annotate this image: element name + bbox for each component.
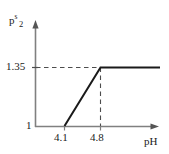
x-axis-label: pH	[144, 136, 157, 147]
data-curve	[65, 68, 161, 127]
x-tick-label-4-8: 4.8	[90, 132, 104, 143]
y-axis	[32, 20, 38, 127]
y-axis-label-superscript: s	[15, 12, 18, 21]
x-axis	[35, 123, 159, 129]
breakpoint-guides	[36, 68, 101, 127]
x-tick-label-4-1: 4.1	[54, 132, 68, 143]
y-axis-label-subscript: 2	[19, 19, 23, 29]
chart-figure: ps2 pH 1.35 1 4.1 4.8	[0, 0, 169, 154]
y-tick-label-1: 1	[26, 120, 32, 131]
y-tick-label-1-35: 1.35	[6, 61, 25, 72]
y-axis-label: ps2	[9, 13, 23, 28]
